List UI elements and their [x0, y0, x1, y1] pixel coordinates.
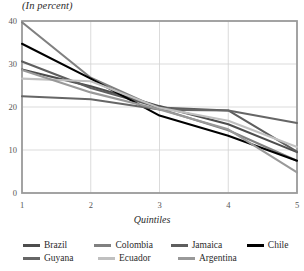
x-tick-label: 3: [157, 200, 161, 210]
y-tick-label: 30: [9, 59, 18, 69]
legend-item-jamaica: Jamaica: [171, 241, 247, 251]
legend-item-brazil: Brazil: [23, 241, 94, 251]
legend-label: Colombia: [115, 241, 152, 251]
y-tick-label: 40: [9, 16, 18, 26]
legend-swatch-icon: [247, 244, 264, 247]
x-tick-label: 1: [20, 200, 24, 210]
legend-swatch-icon: [171, 244, 188, 247]
legend-row: BrazilColombiaJamaicaChile: [0, 239, 304, 252]
legend-item-guyana: Guyana: [23, 254, 98, 264]
legend-item-argentina: Argentina: [178, 254, 258, 264]
legend-label: Ecuador: [119, 254, 151, 264]
legend-label: Argentina: [199, 254, 237, 264]
chart-legend: BrazilColombiaJamaicaChileGuyanaEcuadorA…: [0, 239, 304, 265]
legend-item-colombia: Colombia: [94, 241, 170, 251]
legend-item-ecuador: Ecuador: [98, 254, 178, 264]
x-axis-title: Quintiles: [0, 214, 304, 225]
y-tick-label: 10: [9, 145, 18, 155]
legend-swatch-icon: [178, 257, 195, 260]
legend-swatch-icon: [23, 257, 40, 260]
legend-item-chile: Chile: [247, 241, 304, 251]
x-tick-label: 2: [89, 200, 93, 210]
legend-label: Guyana: [44, 254, 74, 264]
legend-swatch-icon: [98, 257, 115, 260]
y-tick-label: 20: [9, 102, 18, 112]
x-tick-label: 4: [226, 200, 231, 210]
legend-swatch-icon: [23, 244, 40, 247]
chart-figure: (In percent) 01020304012345 Quintiles Br…: [0, 0, 304, 271]
legend-label: Brazil: [44, 241, 67, 251]
legend-label: Chile: [268, 241, 289, 251]
y-tick-label: 0: [13, 188, 17, 198]
x-tick-label: 5: [295, 200, 299, 210]
line-chart-plot: 01020304012345: [0, 0, 304, 212]
legend-label: Jamaica: [192, 241, 223, 251]
legend-swatch-icon: [94, 244, 111, 247]
legend-row: GuyanaEcuadorArgentina: [0, 252, 304, 265]
